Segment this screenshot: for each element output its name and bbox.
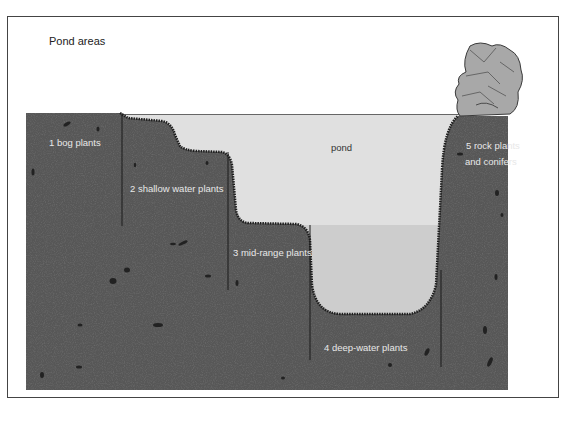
label-zone-2-shallow-water-plants: 2 shallow water plants (130, 183, 223, 194)
label-zone-5-and-conifers: and conifers (465, 156, 517, 167)
label-zone-4-deep-water-plants: 4 deep-water plants (324, 342, 407, 353)
rock-outcrop (455, 43, 522, 116)
label-zone-5-rock-plants: 5 rock plants (466, 140, 520, 151)
label-pond: pond (331, 142, 352, 153)
label-zone-3-mid-range-plants: 3 mid-range plants (233, 247, 312, 258)
pond-cross-section (0, 0, 566, 421)
label-zone-1-bog-plants: 1 bog plants (49, 137, 101, 148)
